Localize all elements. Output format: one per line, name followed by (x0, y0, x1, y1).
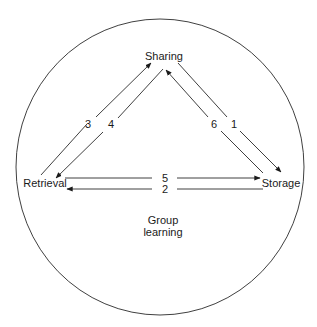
edge-6: 6 (166, 70, 263, 173)
edge-label-6: 6 (211, 118, 217, 130)
node-retrieval: Retrieval (23, 177, 66, 189)
edge-4: 4 (56, 69, 163, 178)
group-learning-boundary (16, 19, 304, 315)
boundary-label-line2: learning (143, 226, 182, 238)
edge-label-3: 3 (85, 118, 91, 130)
edge-label-4: 4 (108, 118, 114, 130)
edge-label-1: 1 (231, 118, 237, 130)
edge-label-2: 2 (162, 183, 168, 195)
edge-1: 1 (178, 63, 281, 172)
group-learning-diagram: Sharing Retrieval Storage 3 4 6 1 5 2 Gr… (0, 0, 317, 327)
edge-3: 3 (41, 63, 151, 175)
node-storage: Storage (262, 177, 301, 189)
boundary-label-line1: Group (148, 214, 179, 226)
edge-2: 2 (67, 183, 263, 195)
node-sharing: Sharing (145, 50, 183, 62)
